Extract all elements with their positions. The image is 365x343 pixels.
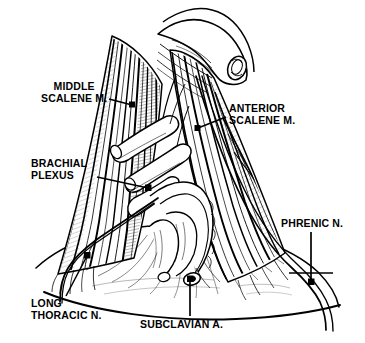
label-middle-scalene-line1: MIDDLE xyxy=(41,81,107,93)
label-long-thoracic-line1: LONG xyxy=(31,298,101,310)
leader-dot-phrenic xyxy=(309,279,315,285)
label-subclavian-artery-line1: SUBCLAVIAN A. xyxy=(140,319,223,331)
leader-dot-long-thoracic xyxy=(85,253,91,259)
label-phrenic-nerve-line1: PHRENIC N. xyxy=(281,218,343,230)
label-middle-scalene: MIDDLE SCALENE M. xyxy=(41,81,107,104)
label-long-thoracic-nerve: LONG THORACIC N. xyxy=(31,298,101,321)
leader-dot-subclavian xyxy=(188,276,194,282)
label-brachial-plexus: BRACHIAL PLEXUS xyxy=(31,158,87,181)
label-middle-scalene-line2: SCALENE M. xyxy=(41,93,107,105)
anatomical-figure: MIDDLE SCALENE M. ANTERIOR SCALENE M. BR… xyxy=(0,0,365,343)
label-anterior-scalene-line2: SCALENE M. xyxy=(229,115,295,127)
label-phrenic-nerve: PHRENIC N. xyxy=(281,218,343,230)
label-anterior-scalene: ANTERIOR SCALENE M. xyxy=(229,103,295,126)
label-brachial-plexus-line1: BRACHIAL xyxy=(31,158,87,170)
label-long-thoracic-line2: THORACIC N. xyxy=(31,310,101,322)
leader-dot-anterior-scalene xyxy=(195,126,200,131)
label-brachial-plexus-line2: PLEXUS xyxy=(31,170,87,182)
leader-dot-brachial-plexus xyxy=(146,185,152,191)
label-anterior-scalene-line1: ANTERIOR xyxy=(229,103,295,115)
label-subclavian-artery: SUBCLAVIAN A. xyxy=(140,319,223,331)
leader-dot-middle-scalene xyxy=(130,102,135,107)
